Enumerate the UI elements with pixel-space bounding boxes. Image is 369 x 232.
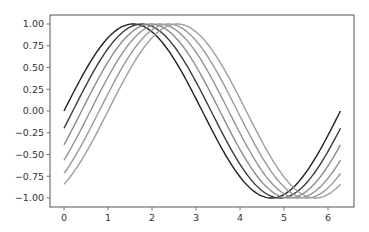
x-tick-label: 3: [193, 212, 199, 223]
x-axis: 0123456: [61, 207, 331, 223]
series-line-0: [64, 24, 340, 198]
y-tick-label: 0.25: [23, 84, 44, 95]
x-tick-label: 5: [281, 212, 287, 223]
series-lines: [64, 24, 340, 198]
y-tick-label: 0.75: [23, 40, 44, 51]
x-tick-label: 6: [325, 212, 331, 223]
y-tick-label: 1.00: [23, 18, 44, 29]
y-axis: 1.000.750.500.250.00−0.25−0.50−0.75−1.00: [15, 18, 50, 203]
x-tick-label: 0: [61, 212, 67, 223]
y-tick-label: −0.25: [15, 127, 44, 138]
y-tick-label: 0.00: [23, 105, 44, 116]
y-tick-label: −1.00: [15, 192, 44, 203]
x-tick-label: 4: [237, 212, 243, 223]
line-chart: 0123456 1.000.750.500.250.00−0.25−0.50−0…: [0, 0, 369, 232]
x-tick-label: 1: [105, 212, 111, 223]
x-tick-label: 2: [149, 212, 155, 223]
y-tick-label: −0.50: [15, 149, 44, 160]
y-tick-label: 0.50: [23, 62, 44, 73]
y-tick-label: −0.75: [15, 171, 44, 182]
